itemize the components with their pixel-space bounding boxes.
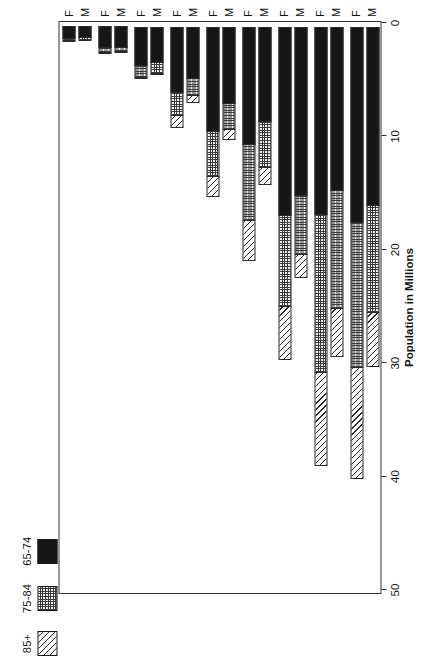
bar-segment-85-plus [294, 254, 307, 278]
bar-segment-65-74 [350, 27, 363, 223]
bar-segment-65-74 [314, 27, 327, 215]
bar-segment-75-84 [98, 47, 111, 54]
bar-segment-65-74 [278, 27, 291, 216]
sex-label-f: F [62, 10, 74, 17]
x-axis-tick [381, 362, 386, 363]
bar-segment-85-plus [170, 115, 183, 129]
bar-segment-75-84 [186, 78, 199, 96]
legend-label-75-84: 75-84 [20, 584, 32, 613]
bar-segment-75-84 [366, 205, 379, 313]
stacked-bar [294, 25, 307, 278]
sex-label-m: M [186, 8, 198, 17]
chart-legend: 85+ 75-84 65-74 [20, 537, 57, 656]
x-axis-tick [381, 135, 386, 136]
bar-segment-65-74 [294, 27, 307, 196]
plot-area [58, 21, 381, 594]
sex-label-m: M [293, 8, 305, 17]
bar-segment-85-plus [222, 129, 235, 139]
sex-label-m: M [114, 8, 126, 17]
sex-label-f: F [98, 10, 110, 17]
sex-label-m: M [222, 8, 234, 17]
legend-swatch-75-84 [37, 586, 57, 611]
sex-label-m: M [365, 8, 377, 17]
bar-segment-85-plus [242, 220, 255, 261]
x-axis-tick [381, 249, 386, 250]
bar-segment-65-74 [222, 27, 235, 104]
x-axis: 01020304050 [381, 21, 421, 594]
sex-label-m: M [150, 8, 162, 17]
figure-page: 85+ 75-84 65-74 01020304050 Population i… [0, 0, 425, 664]
stacked-bar [78, 25, 91, 41]
sex-label-f: F [206, 10, 218, 17]
bar-segment-75-84 [134, 65, 147, 79]
sex-label-f: F [277, 10, 289, 17]
bar-segment-65-74 [98, 26, 111, 48]
stacked-bar [330, 25, 343, 357]
bar-segment-75-84 [314, 214, 327, 373]
category-labels: FM1900FM1920FM1940FM1960FM1980FM2000FM20… [58, 0, 381, 19]
bar-segment-85-plus [258, 167, 271, 185]
bar-segment-65-74 [206, 27, 219, 132]
bar-segment-85-plus [206, 176, 219, 198]
stacked-bar [186, 25, 199, 103]
sex-label-f: F [134, 10, 146, 17]
legend-item-75-84: 75-84 [20, 584, 57, 613]
bar-segment-65-74 [242, 27, 255, 145]
bar-segment-75-84 [170, 92, 183, 116]
x-axis-tick-label: 40 [388, 470, 400, 483]
bar-segment-85-plus [186, 95, 199, 103]
sex-label-f: F [349, 10, 361, 17]
bar-segment-65-74 [62, 26, 75, 38]
sex-label-f: F [241, 10, 253, 17]
bar-segment-85-plus [314, 372, 327, 466]
legend-label-65-74: 65-74 [20, 537, 32, 566]
stacked-bar [242, 25, 255, 261]
bar-segment-65-74 [366, 27, 379, 206]
x-axis-tick [381, 589, 386, 590]
bar-segment-85-plus [278, 306, 291, 359]
stacked-bar [62, 25, 75, 42]
sex-label-f: F [170, 10, 182, 17]
bar-segment-65-74 [186, 27, 199, 79]
bar-segment-65-74 [114, 26, 127, 48]
bar-segment-75-84 [206, 131, 219, 176]
legend-item-65-74: 65-74 [20, 537, 57, 566]
sex-label-m: M [78, 8, 90, 17]
stacked-bar [114, 25, 127, 53]
bar-segment-75-84 [330, 190, 343, 309]
stacked-bar [222, 25, 235, 140]
x-axis-tick-label: 50 [388, 584, 400, 597]
x-axis-tick-label: 0 [388, 20, 400, 26]
bar-segment-75-84 [150, 62, 163, 73]
bar-segment-85-plus [350, 367, 363, 478]
x-axis-tick [381, 476, 386, 477]
bar-segment-65-74 [330, 27, 343, 191]
sex-label-f: F [313, 10, 325, 17]
bar-segment-75-84 [242, 144, 255, 221]
bar-segment-85-plus [330, 309, 343, 358]
sex-label-m: M [257, 8, 269, 17]
stacked-bar [98, 25, 111, 54]
bar-segment-85-plus [366, 312, 379, 368]
bar-segment-75-84 [294, 195, 307, 255]
bar-segment-65-74 [134, 27, 147, 66]
bar-segment-75-84 [222, 103, 235, 130]
bar-segment-65-74 [258, 27, 271, 122]
x-axis-tick [381, 22, 386, 23]
bar-segment-65-74 [170, 27, 183, 93]
x-axis-tick-label: 30 [388, 357, 400, 370]
stacked-bar [278, 25, 291, 360]
stacked-bar [258, 25, 271, 185]
bar-segment-65-74 [150, 27, 163, 63]
bar-segment-75-84 [278, 215, 291, 307]
legend-label-85-plus: 85+ [20, 634, 32, 653]
x-axis-tick-label: 10 [388, 130, 400, 143]
bar-segment-75-84 [258, 121, 271, 167]
stacked-bar [314, 25, 327, 466]
legend-swatch-85-plus [37, 631, 57, 656]
x-axis-tick-label: 20 [388, 243, 400, 256]
rotated-figure-canvas: 85+ 75-84 65-74 01020304050 Population i… [0, 0, 425, 664]
stacked-bar [134, 25, 147, 79]
legend-item-85-plus: 85+ [20, 631, 57, 656]
stacked-bar [170, 25, 183, 128]
